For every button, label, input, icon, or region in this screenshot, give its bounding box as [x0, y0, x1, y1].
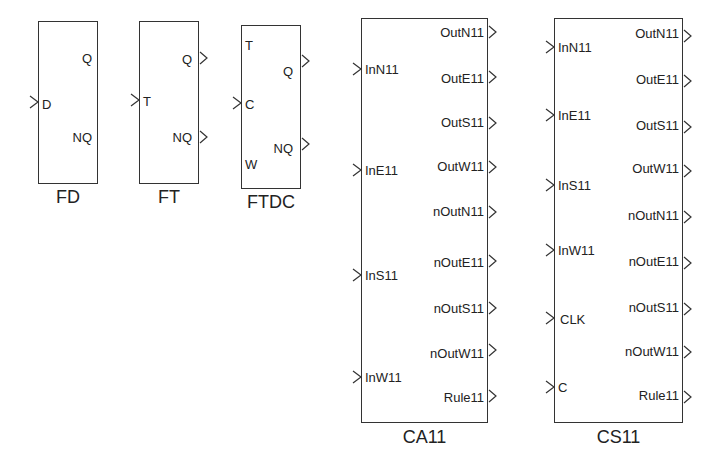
- port-in-inn11: InN11: [365, 63, 399, 76]
- port-out-nouts11: nOutS11: [434, 302, 484, 315]
- output-port-arrow-icon[interactable]: [683, 256, 693, 270]
- input-port-arrow-icon[interactable]: [545, 178, 555, 192]
- input-port-arrow-icon[interactable]: [352, 370, 362, 384]
- port-in-ine11: InE11: [558, 109, 591, 122]
- port-out-rule11: Rule11: [444, 391, 484, 404]
- port-out-q: Q: [283, 65, 293, 78]
- port-out-noutn11: nOutN11: [628, 209, 679, 222]
- port-out-nq: NQ: [274, 142, 294, 155]
- port-in-ins11: InS11: [365, 269, 398, 282]
- output-port-arrow-icon[interactable]: [488, 389, 498, 403]
- port-out-nq: NQ: [73, 131, 93, 144]
- output-port-arrow-icon[interactable]: [683, 345, 693, 359]
- output-port-arrow-icon[interactable]: [488, 301, 498, 315]
- port-out-noute11: nOutE11: [434, 256, 484, 269]
- output-port-arrow-icon[interactable]: [683, 120, 693, 134]
- port-in-inw11: InW11: [558, 244, 595, 257]
- port-out-nq: NQ: [173, 131, 193, 144]
- block-label-cs11: CS11: [554, 428, 683, 446]
- port-in-inn11: InN11: [558, 41, 592, 54]
- port-in-clk: CLK: [560, 313, 585, 326]
- port-out-oute11: OutE11: [441, 72, 484, 85]
- output-port-arrow-icon[interactable]: [683, 29, 693, 43]
- port-out-outn11: OutN11: [440, 26, 484, 39]
- output-port-arrow-icon[interactable]: [488, 116, 498, 130]
- port-in-c: C: [245, 98, 254, 111]
- output-port-arrow-icon[interactable]: [488, 160, 498, 174]
- port-in-t: T: [245, 39, 253, 52]
- port-out-outn11: OutN11: [635, 27, 679, 40]
- input-port-arrow-icon[interactable]: [130, 93, 140, 107]
- output-port-arrow-icon[interactable]: [488, 70, 498, 84]
- port-out-outw11: OutW11: [632, 162, 679, 175]
- port-out-noutn11: nOutN11: [433, 205, 484, 218]
- output-port-arrow-icon[interactable]: [199, 130, 209, 144]
- port-out-rule11: Rule11: [639, 389, 679, 402]
- output-port-arrow-icon[interactable]: [488, 343, 498, 357]
- block-label-ca11: CA11: [361, 428, 488, 446]
- port-in-ins11: InS11: [558, 179, 591, 192]
- output-port-arrow-icon[interactable]: [683, 302, 693, 316]
- port-out-outs11: OutS11: [636, 119, 679, 132]
- input-port-arrow-icon[interactable]: [545, 40, 555, 54]
- block-fd[interactable]: D Q NQ: [38, 21, 98, 184]
- port-in-inw11: InW11: [365, 371, 402, 384]
- block-ca11[interactable]: InN11 InE11 InS11 InW11 OutN11 OutE11 Ou…: [361, 18, 488, 423]
- port-out-noutw11: nOutW11: [430, 347, 484, 360]
- output-port-arrow-icon[interactable]: [199, 51, 209, 65]
- output-port-arrow-icon[interactable]: [301, 54, 311, 68]
- output-port-arrow-icon[interactable]: [488, 25, 498, 39]
- port-out-q: Q: [182, 53, 192, 66]
- output-port-arrow-icon[interactable]: [683, 390, 693, 404]
- port-in-ine11: InE11: [365, 164, 398, 177]
- output-port-arrow-icon[interactable]: [301, 137, 311, 151]
- port-out-oute11: OutE11: [636, 73, 679, 86]
- block-ftdc[interactable]: T C W Q NQ: [241, 25, 301, 189]
- output-port-arrow-icon[interactable]: [683, 210, 693, 224]
- input-port-arrow-icon[interactable]: [545, 380, 555, 394]
- port-out-noute11: nOutE11: [629, 255, 679, 268]
- port-out-q: Q: [82, 52, 92, 65]
- port-out-noutw11: nOutW11: [625, 345, 679, 358]
- block-label-ft: FT: [139, 188, 199, 206]
- port-out-nouts11: nOutS11: [629, 301, 679, 314]
- port-out-outw11: OutW11: [437, 160, 484, 173]
- input-port-arrow-icon[interactable]: [352, 163, 362, 177]
- output-port-arrow-icon[interactable]: [488, 205, 498, 219]
- port-in-d: D: [42, 98, 51, 111]
- port-out-outs11: OutS11: [441, 116, 484, 129]
- output-port-arrow-icon[interactable]: [683, 74, 693, 88]
- input-port-arrow-icon[interactable]: [352, 62, 362, 76]
- port-in-c: C: [558, 381, 567, 394]
- input-port-arrow-icon[interactable]: [232, 96, 242, 110]
- input-port-arrow-icon[interactable]: [352, 268, 362, 282]
- input-port-arrow-icon[interactable]: [29, 95, 39, 109]
- output-port-arrow-icon[interactable]: [683, 164, 693, 178]
- output-port-arrow-icon[interactable]: [488, 254, 498, 268]
- input-port-arrow-icon[interactable]: [545, 311, 555, 325]
- port-in-w: W: [245, 158, 257, 171]
- block-label-ftdc: FTDC: [236, 193, 306, 211]
- block-label-fd: FD: [38, 188, 98, 206]
- input-port-arrow-icon[interactable]: [545, 108, 555, 122]
- block-cs11[interactable]: InN11 InE11 InS11 InW11 CLK C OutN11 Out…: [554, 18, 683, 423]
- port-in-t: T: [143, 95, 151, 108]
- input-port-arrow-icon[interactable]: [545, 243, 555, 257]
- block-ft[interactable]: T Q NQ: [139, 21, 199, 184]
